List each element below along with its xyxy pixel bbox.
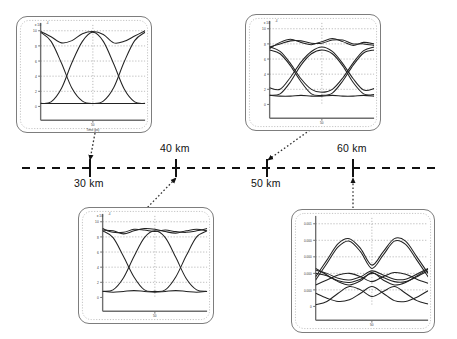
y-axis-tick-label: 10 (33, 29, 37, 33)
distance-label-50-km: 50 km (251, 178, 281, 189)
eye-diagram-panel-40km[interactable]: 0246810x 10-450 (78, 207, 214, 324)
y-axis-tick-label: 6 (97, 251, 99, 255)
y-axis-scale-exponent-sup: -4 (46, 21, 49, 25)
y-axis-tick-label: 0.000 (304, 256, 312, 260)
y-axis-tick-label: 0.001 (304, 222, 312, 226)
panel-dotted-frame (82, 211, 209, 319)
y-axis-tick-label: 8 (264, 43, 266, 47)
y-axis-tick-label: 0 (35, 105, 37, 109)
connector-40km (145, 178, 176, 210)
y-axis-tick-label: 0.000 (304, 289, 312, 293)
y-axis-scale-exponent: x 10 (97, 214, 103, 218)
eye-diagram-panel-50km[interactable]: 0246810x 10-450 (245, 14, 381, 131)
connector-50km (268, 130, 310, 160)
y-axis-tick-label: 2 (35, 90, 37, 94)
distance-label-40-km: 40 km (160, 143, 190, 154)
eye-diagram-panel-60km[interactable]: 00.0000.0000.0000.0000.00150 (291, 209, 435, 333)
y-axis-tick-label: 8 (97, 236, 99, 240)
y-axis-tick-label: 0 (264, 103, 266, 107)
x-axis-tick-label: 50 (370, 323, 374, 327)
y-axis-scale-exponent: x 10 (35, 23, 41, 27)
y-axis-tick-label: 0.000 (304, 272, 312, 276)
y-axis-scale-exponent: x 10 (264, 21, 270, 25)
eye-diagram-plot-30km: 0246810x 10-450Time (ps) (17, 17, 151, 132)
y-axis-tick-label: 4 (97, 266, 99, 270)
eye-diagram-plot-60km: 00.0000.0000.0000.0000.00150 (292, 210, 434, 332)
y-axis-scale-exponent-sup: -4 (108, 212, 111, 216)
y-axis-tick-label: 0 (97, 296, 99, 300)
y-axis-tick-label: 6 (35, 60, 37, 64)
y-axis-tick-label: 2 (264, 88, 266, 92)
y-axis-tick-label: 0.000 (304, 239, 312, 243)
eye-diagram-plot-50km: 0246810x 10-450 (246, 15, 380, 130)
y-axis-tick-label: 10 (95, 220, 99, 224)
y-axis-tick-label: 8 (35, 45, 37, 49)
y-axis-scale-exponent-sup: -4 (275, 19, 278, 23)
eye-diagram-plot-40km: 0246810x 10-450 (79, 208, 213, 323)
distance-label-60-km: 60 km (337, 143, 367, 154)
connector-30km (90, 133, 95, 160)
x-axis-tick-label: 50 (320, 121, 324, 125)
x-axis-tick-label: 50 (153, 314, 157, 318)
y-axis-tick-label: 10 (262, 27, 266, 31)
panel-dotted-frame (20, 20, 147, 128)
y-axis-tick-label: 6 (264, 58, 266, 62)
x-axis-title: Time (ps) (86, 128, 99, 132)
y-axis-tick-label: 2 (97, 281, 99, 285)
y-axis-tick-label: 0 (310, 305, 312, 309)
eye-diagram-panel-30km[interactable]: 0246810x 10-450Time (ps) (16, 16, 152, 133)
panel-dotted-frame (249, 18, 376, 126)
y-axis-tick-label: 4 (35, 75, 37, 79)
distance-label-30-km: 30 km (74, 178, 104, 189)
y-axis-tick-label: 4 (264, 73, 266, 77)
figure-canvas: 30 km40 km50 km60 km 0246810x 10-450Time… (0, 0, 457, 339)
